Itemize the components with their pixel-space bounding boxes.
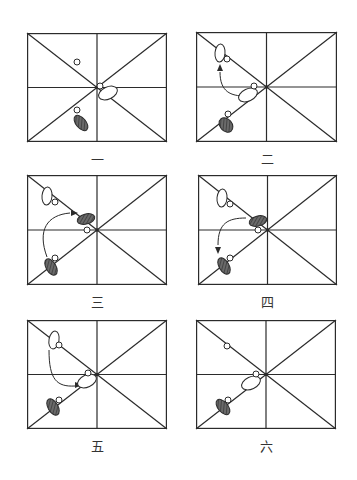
arrowhead-icon <box>71 210 78 216</box>
center-dot <box>264 373 268 377</box>
grid-box <box>196 32 337 142</box>
position-marker <box>224 343 230 349</box>
dark-footprint-icon <box>248 214 268 228</box>
step-label: 二 <box>247 153 287 167</box>
position-marker <box>251 83 257 89</box>
position-marker <box>56 397 62 403</box>
position-marker <box>255 227 261 233</box>
position-marker <box>84 227 90 233</box>
step-panel-3 <box>27 175 167 285</box>
movement-arrow <box>218 218 246 245</box>
arrowhead-icon <box>217 64 223 71</box>
grid-box <box>27 320 167 429</box>
position-marker <box>227 255 233 261</box>
dark-footprint-icon <box>71 113 90 133</box>
dark-footprint-icon <box>216 115 235 135</box>
dark-footprint-icon <box>76 212 96 226</box>
step-panel-4 <box>198 175 337 285</box>
position-marker <box>225 397 231 403</box>
position-marker <box>224 56 230 62</box>
grid-box <box>27 175 167 285</box>
arrowhead-icon <box>215 247 221 254</box>
position-marker <box>74 59 80 65</box>
step-panel-2 <box>196 32 337 142</box>
movement-arrow <box>49 350 75 386</box>
position-marker <box>225 111 231 117</box>
step-label: 一 <box>77 153 117 167</box>
white-footprint-icon <box>239 373 262 392</box>
white-footprint-icon <box>41 187 53 206</box>
step-label: 四 <box>247 296 287 310</box>
center-dot <box>266 228 270 232</box>
grid-box <box>198 175 337 285</box>
position-marker <box>97 83 103 89</box>
grid-box <box>27 33 167 142</box>
step-label: 三 <box>77 296 117 310</box>
step-panel-5 <box>27 320 167 429</box>
grid-box <box>196 320 336 429</box>
center-dot <box>265 85 269 89</box>
position-marker <box>85 370 91 376</box>
position-marker <box>52 199 58 205</box>
position-marker <box>253 371 259 377</box>
step-label: 六 <box>246 440 286 454</box>
position-marker <box>52 255 58 261</box>
position-marker <box>56 342 62 348</box>
step-label: 五 <box>77 440 117 454</box>
step-panel-1 <box>27 33 167 142</box>
position-marker <box>74 107 80 113</box>
step-panel-6 <box>196 320 336 429</box>
movement-arrow <box>43 213 70 257</box>
center-dot <box>95 228 99 232</box>
position-marker <box>227 201 233 207</box>
